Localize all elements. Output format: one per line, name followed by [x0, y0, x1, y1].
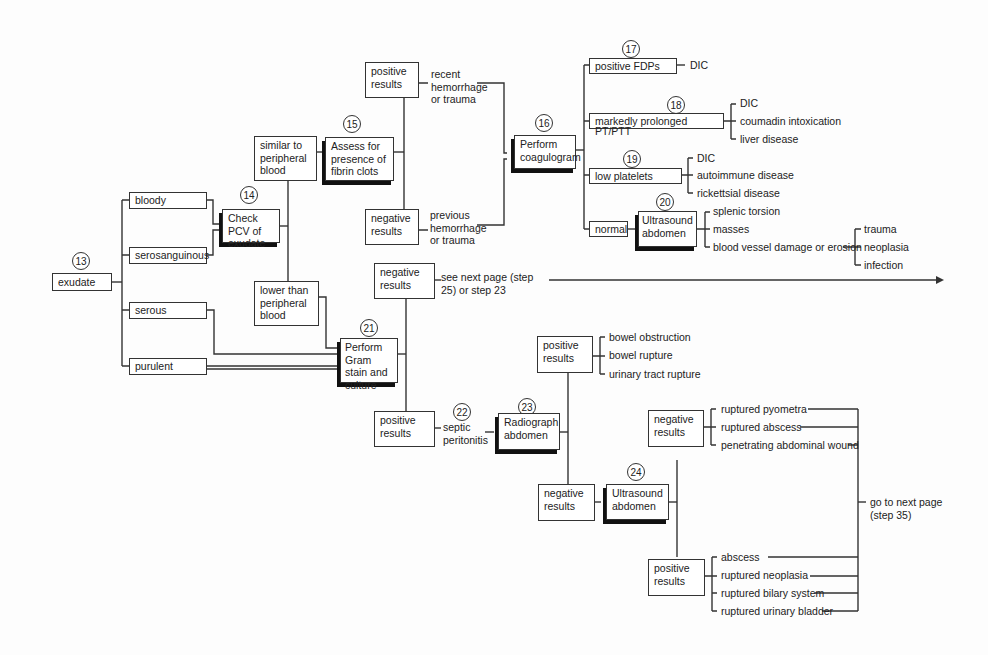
node-similar-to-peripheral: similar to peripheral blood: [254, 136, 317, 181]
node-negative-results-23: negative results: [538, 484, 595, 521]
outcome-ruptured-abscess: ruptured abscess: [721, 421, 802, 434]
node-radiograph-abdomen: Radiograph abdomen: [498, 413, 560, 450]
label-previous-hemorrhage: previous hemorrhage or trauma: [430, 209, 482, 247]
step-number-20: 20: [656, 193, 674, 211]
node-purulent: purulent: [129, 358, 207, 375]
outcome-bowel-obstruction: bowel obstruction: [609, 331, 691, 344]
node-gram-stain-culture: Perform Gram stain and culture: [340, 338, 398, 383]
node-perform-coagulogram: Perform coagulogram: [514, 135, 576, 169]
node-exudate: exudate: [52, 273, 112, 291]
label-see-next-page: see next page (step 25) or step 23: [441, 271, 551, 296]
node-low-platelets: low platelets: [589, 168, 682, 184]
step-number-14: 14: [240, 186, 258, 204]
outcome-ruptured-urinary-bladder: ruptured urinary bladder: [721, 605, 833, 618]
step-number-13: 13: [72, 252, 90, 270]
node-serous: serous: [129, 302, 207, 319]
node-negative-results-15: negative results: [365, 209, 419, 245]
step-number-22: 22: [453, 403, 471, 421]
outcome-autoimmune: autoimmune disease: [697, 169, 794, 182]
node-normal: normal: [589, 221, 628, 237]
outcome-urinary-tract-rupture: urinary tract rupture: [609, 368, 701, 381]
outcome-masses: masses: [713, 223, 749, 236]
outcome-trauma: trauma: [864, 223, 897, 236]
step-number-16: 16: [535, 114, 553, 132]
node-positive-results-23: positive results: [537, 336, 593, 373]
node-positive-fdps: positive FDPs: [589, 58, 677, 74]
outcome-coumadin: coumadin intoxication: [740, 115, 841, 128]
outcome-platelets-dic: DIC: [697, 152, 715, 165]
step-number-17: 17: [622, 40, 640, 58]
label-septic-peritonitis: septic peritonitis: [443, 421, 488, 446]
label-go-to-next-page: go to next page (step 35): [870, 496, 950, 521]
diagnostic-flowchart: 13 exudate bloody serosanguinous serous …: [0, 0, 988, 655]
node-positive-results-21: positive results: [374, 411, 435, 447]
node-ultrasound-24: Ultrasound abdomen: [606, 484, 669, 520]
connector-lines: [0, 0, 988, 655]
node-serosanguinous: serosanguinous: [129, 247, 207, 264]
outcome-ruptured-neoplasia: ruptured neoplasia: [721, 569, 808, 582]
outcome-fdps-dic: DIC: [690, 59, 708, 72]
outcome-ruptured-bilary-system: ruptured bilary system: [721, 587, 824, 600]
node-prolonged-pt-ptt: markedly prolonged PT/PTT: [589, 113, 724, 129]
outcome-blood-vessel-damage: blood vessel damage or erosion: [713, 241, 862, 254]
outcome-liver-disease: liver disease: [740, 133, 798, 146]
step-number-15: 15: [343, 115, 361, 133]
node-positive-results-24: positive results: [648, 559, 705, 596]
node-assess-fibrin: Assess for presence of fibrin clots: [325, 137, 394, 181]
step-number-24: 24: [627, 463, 645, 481]
step-number-21: 21: [360, 319, 378, 337]
node-negative-results-24: negative results: [648, 410, 704, 447]
node-positive-results-15: positive results: [365, 62, 419, 98]
outcome-splenic-torsion: splenic torsion: [713, 205, 780, 218]
step-number-18: 18: [667, 96, 685, 114]
outcome-ruptured-pyometra: ruptured pyometra: [721, 403, 807, 416]
outcome-prolonged-dic: DIC: [740, 97, 758, 110]
arrow-head-icon: [936, 276, 944, 284]
step-number-19: 19: [623, 150, 641, 168]
node-lower-than-peripheral: lower than peripheral blood: [254, 281, 319, 326]
outcome-abscess: abscess: [721, 551, 760, 564]
node-check-pcv: Check PCV of exudate: [222, 209, 280, 243]
outcome-penetrating-wound: penetrating abdominal wound: [721, 439, 859, 452]
outcome-infection: infection: [864, 259, 903, 272]
label-recent-hemorrhage: recent hemorrhage or trauma: [431, 68, 481, 106]
outcome-rickettsial: rickettsial disease: [697, 187, 780, 200]
outcome-neoplasia: neoplasia: [864, 241, 909, 254]
node-negative-results-21: negative results: [374, 263, 435, 299]
node-ultrasound-20: Ultrasound abdomen: [638, 211, 697, 247]
node-bloody: bloody: [129, 192, 207, 209]
outcome-bowel-rupture: bowel rupture: [609, 349, 673, 362]
